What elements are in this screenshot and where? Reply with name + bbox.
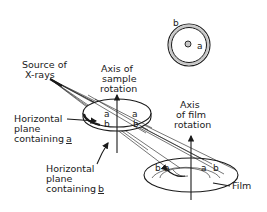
- inset-ring-pattern: a b: [168, 18, 210, 66]
- inset-label-b: b: [173, 18, 179, 28]
- inset-label-a: a: [197, 41, 203, 51]
- sample-point-b2: b: [133, 119, 139, 129]
- plane-a-letter: a: [66, 133, 72, 144]
- spot-a: [185, 41, 191, 47]
- sample-point-b1: b: [104, 119, 110, 129]
- plane-b-letter: b: [98, 183, 104, 194]
- plane-b-label-line3: containing: [46, 183, 96, 194]
- plane-b-arrow: [97, 143, 108, 164]
- film-point-a1: a: [164, 163, 170, 173]
- sample-point-a2: a: [132, 109, 138, 119]
- diffraction-diagram: a b Source of X-rays Axis of sample rota…: [0, 0, 267, 212]
- source-label-line2: X-rays: [25, 69, 55, 80]
- film-pointer: [213, 183, 230, 186]
- film-point-a2: a: [201, 163, 207, 173]
- film-point-b2: b: [213, 163, 219, 173]
- film-axis-label-line3: rotation: [174, 119, 211, 130]
- film-label: Film: [232, 180, 251, 191]
- sample-axis-label-line3: rotation: [100, 83, 137, 94]
- sample-point-a1: a: [104, 109, 110, 119]
- film-point-b1: b: [155, 163, 161, 173]
- plane-a-label-line3: containing: [14, 133, 64, 144]
